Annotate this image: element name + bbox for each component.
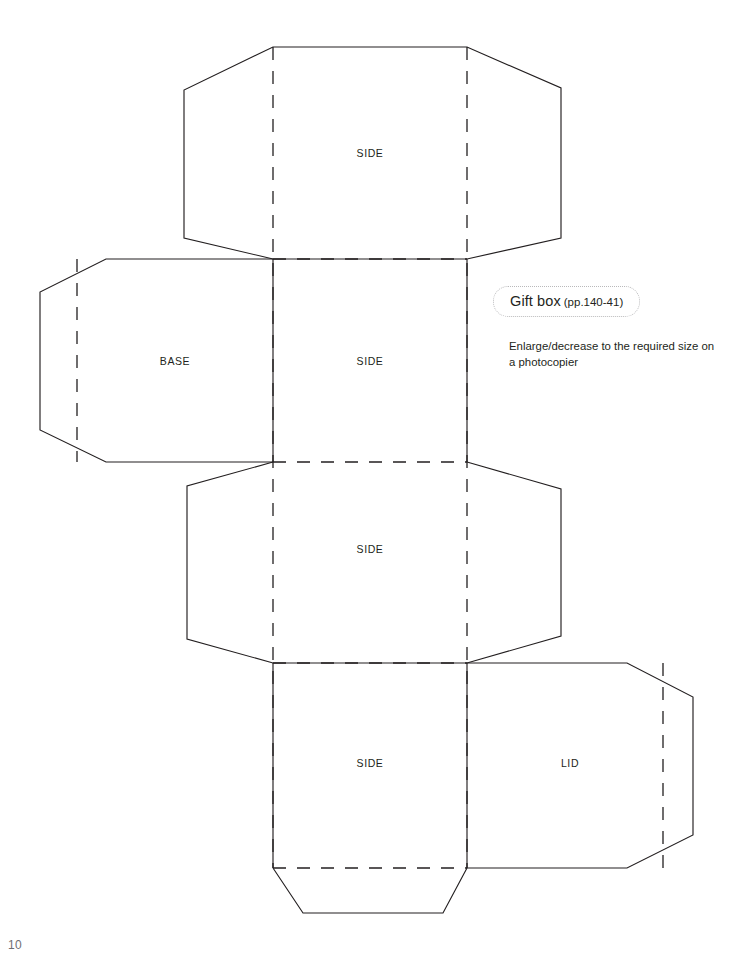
panel-label-side-bottom: SIDE — [357, 757, 384, 769]
panel-label-side-top: SIDE — [357, 147, 384, 159]
panel-label-side-upper-middle: SIDE — [357, 355, 384, 367]
side-lower-middle-outline — [187, 462, 561, 663]
panel-label-side-lower-middle: SIDE — [357, 543, 384, 555]
panel-labels-group: SIDEBASESIDESIDESIDELID — [160, 147, 579, 769]
caption-title: Gift box — [510, 293, 561, 309]
bottom-flap-outline — [273, 868, 467, 913]
template-sheet: SIDEBASESIDESIDESIDELID Gift box(pp.140-… — [0, 0, 755, 953]
die-cut-diagram: SIDEBASESIDESIDESIDELID — [0, 0, 755, 953]
base-outline — [40, 259, 273, 462]
panel-label-base: BASE — [160, 355, 190, 367]
caption-page-reference: (pp.140-41) — [564, 296, 623, 308]
lid-outline — [467, 663, 693, 868]
cut-lines-group — [40, 47, 693, 913]
caption-chip: Gift box(pp.140-41) — [493, 286, 640, 317]
instruction-text: Enlarge/decrease to the required size on… — [509, 338, 721, 370]
annotation-block: Gift box(pp.140-41) Enlarge/decrease to … — [493, 286, 731, 370]
fold-lines-group — [77, 47, 663, 868]
page-number: 10 — [8, 938, 22, 952]
panel-label-lid: LID — [561, 757, 579, 769]
